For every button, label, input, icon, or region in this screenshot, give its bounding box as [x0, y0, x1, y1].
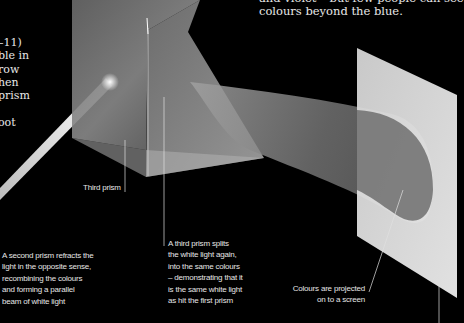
body-text-line: colours beyond the blue. — [259, 4, 403, 18]
body-text-line: row — [0, 63, 19, 76]
body-text-line: hen — [0, 76, 19, 89]
body-text-line: ble in — [0, 49, 29, 62]
second-prism-caption: A second prism refracts the light in the… — [2, 250, 94, 307]
body-text-line: oot — [0, 116, 16, 129]
third-prism-label: Third prism — [83, 182, 121, 193]
third-prism-split-caption: A third prism splits the white light aga… — [168, 238, 243, 306]
light-entry-glow — [101, 73, 119, 91]
body-text-left-clipped: –11) ble in row hen prism oot — [0, 36, 28, 129]
body-text-line: –11) — [0, 36, 22, 49]
screen-caption: Colours are projected on to a screen — [292, 283, 365, 306]
body-text-top: and violet – but few people can see colo… — [259, 0, 464, 18]
body-text-line: prism — [0, 89, 30, 102]
